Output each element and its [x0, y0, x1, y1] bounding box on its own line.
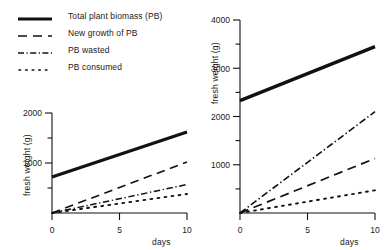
chart-left-plot-area: 2000 1000 0 5 10 — [0, 0, 200, 250]
series-line-pb-wasted — [240, 112, 375, 213]
x-axis-ticks — [52, 213, 187, 220]
figure-root: Total plant biomass (PB) New growth of P… — [0, 0, 388, 250]
series-line-new-growth — [240, 159, 375, 214]
series-line-pb-consumed — [52, 194, 187, 213]
series-line-total-biomass — [240, 47, 375, 101]
y-axis-ticks — [45, 113, 52, 188]
y-tick-label: 4000 — [211, 15, 230, 25]
x-tick-label: 0 — [50, 225, 55, 235]
x-axis-title: days — [152, 237, 171, 247]
x-axis-title: days — [340, 237, 359, 247]
series-line-total-biomass — [52, 132, 187, 177]
y-axis-title: fresh weight (g) — [22, 134, 32, 196]
y-tick-label: 2000 — [211, 112, 230, 122]
x-tick-label: 10 — [370, 225, 380, 235]
y-axis-ticks — [233, 20, 240, 189]
y-tick-label: 1000 — [211, 160, 230, 170]
series-line-pb-wasted — [52, 185, 187, 214]
x-tick-label: 0 — [238, 225, 243, 235]
chart-right-plot-area: 4000 3000 2000 1000 0 5 10 — [188, 0, 388, 250]
x-tick-label: 5 — [117, 225, 122, 235]
y-axis-title: fresh weight (g) — [210, 42, 220, 104]
chart-left-panel: 2000 1000 0 5 10 fresh weight (g) days — [0, 0, 200, 250]
x-axis-ticks — [240, 213, 375, 220]
series-line-pb-consumed — [240, 190, 375, 213]
y-tick-label: 2000 — [23, 108, 42, 118]
chart-right-panel: 4000 3000 2000 1000 0 5 10 fresh weight … — [188, 0, 388, 250]
x-tick-label: 5 — [305, 225, 310, 235]
